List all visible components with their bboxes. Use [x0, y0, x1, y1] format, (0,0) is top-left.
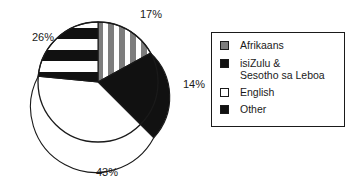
- legend-item-isizulu: isiZulu & Sesotho sa Leboa: [220, 57, 340, 82]
- legend-label-afrikaans: Afrikaans: [240, 39, 284, 52]
- legend-swatch-icon-english: [220, 88, 229, 97]
- legend-swatch-icon-afrikaans: [220, 41, 229, 50]
- legend-label-other: Other: [240, 103, 266, 116]
- pie-label-english: 43%: [96, 166, 118, 178]
- legend-label-isizulu: isiZulu & Sesotho sa Leboa: [240, 57, 325, 82]
- legend-swatch-icon-isizulu: [220, 59, 229, 68]
- legend-item-other: Other: [220, 103, 340, 116]
- pie-chart-figure: 17% 26% 14% 43% Afrikaans isiZulu & Seso…: [0, 0, 357, 179]
- legend-list: Afrikaans isiZulu & Sesotho sa Leboa Eng…: [220, 39, 340, 122]
- pie-label-afrikaans: 17%: [140, 8, 162, 20]
- legend: Afrikaans isiZulu & Sesotho sa Leboa Eng…: [211, 32, 345, 127]
- pie-chart-graphic: 17% 26% 14% 43%: [20, 6, 190, 176]
- legend-swatch-icon-other: [220, 105, 229, 114]
- legend-item-afrikaans: Afrikaans: [220, 39, 340, 52]
- legend-item-english: English: [220, 86, 340, 99]
- legend-label-english: English: [240, 86, 274, 99]
- pie-label-other: 14%: [183, 78, 205, 90]
- pie-label-isizulu: 26%: [32, 31, 54, 43]
